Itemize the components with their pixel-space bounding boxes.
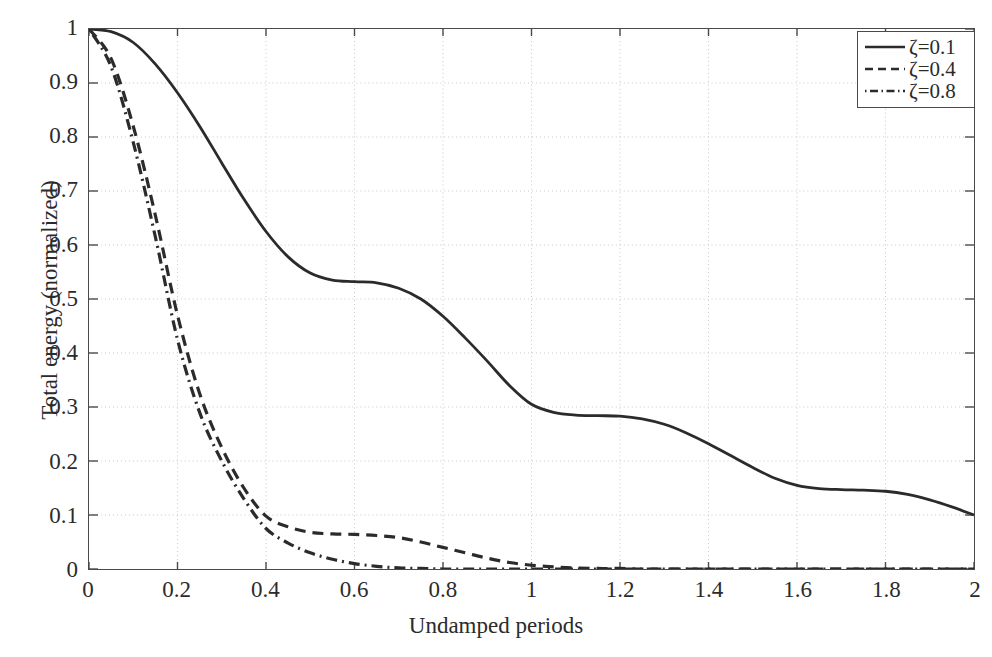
x-tick-label: 0.4 <box>251 578 280 601</box>
legend-line-solid-icon <box>863 40 907 54</box>
legend: ζ=0.1 ζ=0.4 ζ=0.8 <box>857 31 975 108</box>
legend-label: ζ=0.8 <box>907 81 956 102</box>
x-tick-label: 0.8 <box>428 578 457 601</box>
x-tick-label: 1.2 <box>606 578 635 601</box>
x-tick-label: 0 <box>82 578 94 601</box>
legend-item-zeta-0-8: ζ=0.8 <box>863 80 969 102</box>
x-tick-label: 0.6 <box>340 578 369 601</box>
x-tick-label: 0.2 <box>162 578 191 601</box>
x-tick-label: 1.4 <box>695 578 724 601</box>
data-curves <box>89 29 974 569</box>
curve-ζ=0.1 <box>89 29 974 515</box>
y-axis-title: Total energy (normalized) <box>37 20 63 580</box>
legend-line-dashdot-icon <box>863 84 907 98</box>
legend-line-dashed-icon <box>863 62 907 76</box>
x-tick-label: 2 <box>969 578 981 601</box>
legend-item-zeta-0-1: ζ=0.1 <box>863 36 969 58</box>
figure-canvas: 1 0.9 0.8 0.7 0.6 0.5 0.4 0.3 0.2 0.1 0 … <box>0 0 992 657</box>
x-axis-title: Undamped periods <box>0 613 992 639</box>
curve-ζ=0.8 <box>89 29 974 569</box>
curve-ζ=0.4 <box>89 29 974 569</box>
plot-area <box>88 28 975 570</box>
x-tick-label: 1 <box>526 578 538 601</box>
legend-label: ζ=0.1 <box>907 37 956 58</box>
x-tick-label: 1.8 <box>872 578 901 601</box>
x-tick-label: 1.6 <box>783 578 812 601</box>
legend-label: ζ=0.4 <box>907 59 956 80</box>
legend-item-zeta-0-4: ζ=0.4 <box>863 58 969 80</box>
